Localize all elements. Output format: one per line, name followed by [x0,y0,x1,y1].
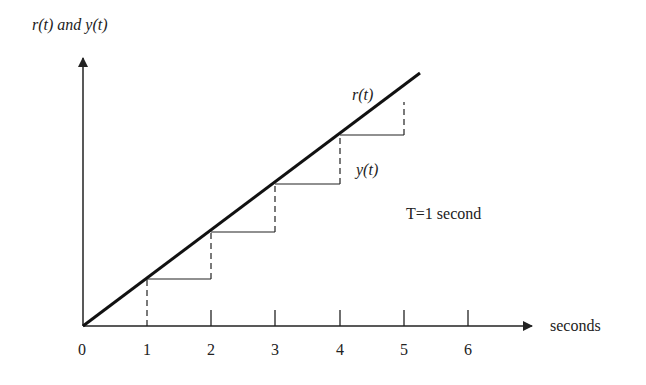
tick-label-3: 3 [271,341,279,359]
tick-label-0: 0 [78,341,86,359]
ramp-r [83,73,420,326]
tick-label-4: 4 [336,341,344,359]
ramp-label: r(t) [352,86,373,104]
tick-label-5: 5 [400,341,408,359]
tick-label-2: 2 [207,341,215,359]
staircase-y [147,102,404,326]
period-annotation: T=1 second [406,205,481,223]
tick-label-1: 1 [143,341,151,359]
tick-label-6: 6 [464,341,472,359]
x-ticks [211,310,468,326]
x-axis-label: seconds [550,317,601,335]
staircase-label: y(t) [356,161,378,179]
y-axis-label: r(t) and y(t) [32,16,108,34]
